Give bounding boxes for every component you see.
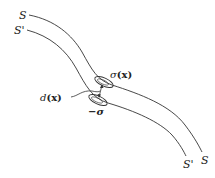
label-s-prime-bottom: S': [183, 158, 194, 171]
label-sigma-x: σ(x): [110, 69, 132, 80]
label-minus-sigma: −σ: [88, 106, 104, 117]
surface-s-curve: [29, 15, 202, 152]
label-d-x: d(x): [40, 92, 62, 103]
diagram-canvas: S S' S S' σ(x) d(x) −σ: [0, 0, 215, 178]
label-s-bottom: S: [201, 154, 209, 167]
label-s-prime-top: S': [14, 24, 25, 37]
label-s-top: S: [19, 9, 27, 22]
